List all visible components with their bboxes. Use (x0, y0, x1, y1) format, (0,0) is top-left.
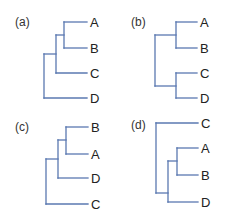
panel-label: (a) (15, 15, 30, 29)
leaf-label: C (90, 66, 99, 81)
leaf-label: B (200, 41, 209, 56)
leaf-label: A (91, 147, 100, 162)
panel-label: (d) (131, 118, 146, 132)
panel-label: (c) (15, 120, 29, 134)
tree-panel-c: (c) B A D C (15, 120, 100, 212)
tree-panel-a: (a) A B C D (15, 15, 99, 106)
tree-panel-d: (d) C A B D (131, 116, 210, 210)
leaf-label: D (201, 195, 210, 210)
phylogenetic-trees-figure: (a) A B C D (b) A B C D (0, 0, 233, 220)
leaf-label: B (201, 168, 210, 183)
leaf-label: A (200, 15, 209, 30)
tree-panel-b: (b) A B C D (131, 15, 209, 106)
leaf-label: C (201, 116, 210, 131)
leaf-label: D (90, 91, 99, 106)
leaf-label: C (200, 66, 209, 81)
leaf-label: D (91, 171, 100, 186)
leaf-label: D (200, 91, 209, 106)
leaf-label: B (90, 41, 99, 56)
leaf-label: B (91, 120, 100, 135)
leaf-label: C (91, 197, 100, 212)
leaf-label: A (201, 141, 210, 156)
panel-label: (b) (131, 15, 146, 29)
leaf-label: A (90, 15, 99, 30)
